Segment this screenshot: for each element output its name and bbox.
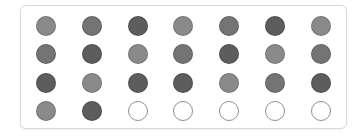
filled-dot-light [82, 73, 102, 93]
filled-dot-dark [219, 44, 239, 64]
filled-dot-light [173, 16, 193, 36]
filled-dot-light [128, 44, 148, 64]
empty-dot [219, 101, 239, 121]
filled-dot-mid [265, 73, 285, 93]
empty-dot [128, 101, 148, 121]
filled-dot-light [36, 101, 56, 121]
filled-dot-dark [311, 73, 331, 93]
filled-dot-dark [128, 16, 148, 36]
filled-dot-dark [265, 16, 285, 36]
filled-dot-mid [311, 44, 331, 64]
filled-dot-light [265, 44, 285, 64]
filled-dot-dark [173, 73, 193, 93]
filled-dot-dark [128, 73, 148, 93]
empty-dot [173, 101, 193, 121]
filled-dot-mid [173, 44, 193, 64]
empty-dot [265, 101, 285, 121]
filled-dot-mid [82, 16, 102, 36]
filled-dot-light [311, 16, 331, 36]
filled-dot-light [219, 73, 239, 93]
empty-dot [311, 101, 331, 121]
filled-dot-mid [219, 16, 239, 36]
filled-dot-light [36, 16, 56, 36]
filled-dot-mid [36, 44, 56, 64]
filled-dot-dark [82, 101, 102, 121]
filled-dot-dark [82, 44, 102, 64]
filled-dot-dark [36, 73, 56, 93]
dot-grid-card [20, 5, 347, 129]
